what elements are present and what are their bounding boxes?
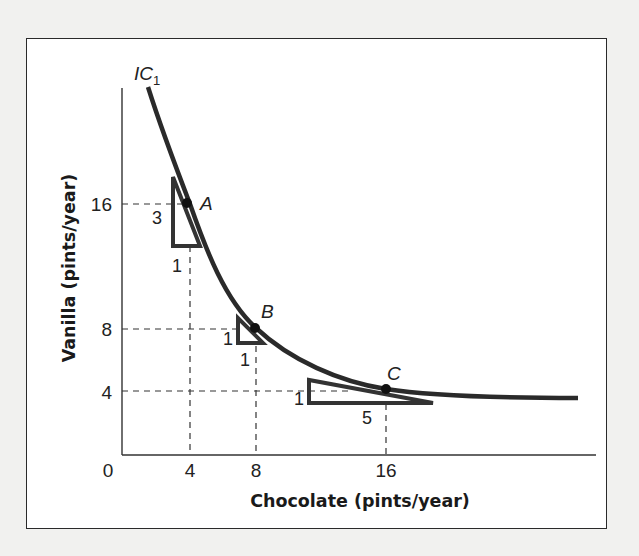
origin-label: 0: [103, 460, 114, 481]
slope-triangle-a: [173, 177, 200, 246]
triangle-b-run-label: 1: [240, 350, 250, 370]
triangle-c-run-label: 5: [362, 408, 372, 428]
y-tick-8: 8: [101, 319, 112, 340]
x-axis-title: Chocolate (pints/year): [250, 491, 470, 511]
indifference-curve-ic1: [148, 87, 578, 398]
triangle-a-rise-label: 3: [152, 208, 162, 228]
triangle-c-rise-label: 1: [294, 389, 304, 409]
triangle-a-run-label: 1: [172, 256, 182, 276]
point-b-label: B: [261, 301, 274, 322]
point-c-label: C: [387, 363, 401, 384]
point-a-label: A: [199, 193, 213, 214]
x-tick-8: 8: [251, 460, 262, 481]
y-axis-title: Vanilla (pints/year): [59, 174, 79, 363]
triangle-b-rise-label: 1: [223, 329, 233, 349]
y-tick-16: 16: [91, 194, 112, 215]
point-c-marker: [381, 384, 391, 394]
y-tick-4: 4: [101, 382, 112, 403]
point-a-marker: [182, 198, 192, 208]
indifference-curve-chart: IC1 A B C 3 1 1 1 1 5 16 8 4 0 4 8 16 Ch…: [0, 0, 639, 556]
point-b-marker: [250, 323, 260, 333]
x-tick-16: 16: [375, 460, 396, 481]
x-tick-4: 4: [185, 460, 196, 481]
curve-label: IC1: [134, 63, 160, 88]
